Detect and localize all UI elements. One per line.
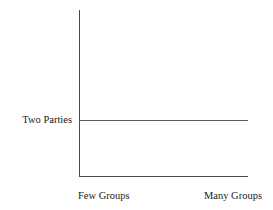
chart-figure: Two Parties Few Groups Many Groups bbox=[0, 0, 273, 210]
y-axis-line bbox=[79, 10, 80, 177]
series-line-two-parties bbox=[79, 120, 248, 121]
y-axis-tick-label-two-parties: Two Parties bbox=[22, 115, 72, 126]
x-axis-tick-label-many-groups: Many Groups bbox=[204, 191, 262, 202]
x-axis-line bbox=[79, 176, 248, 177]
x-axis-tick-label-few-groups: Few Groups bbox=[78, 191, 130, 202]
